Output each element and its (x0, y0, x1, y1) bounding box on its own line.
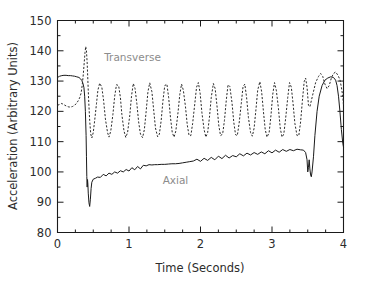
y-axis-title: Acceleration (Arbitrary Units) (6, 42, 20, 210)
y-tick-label-90: 90 (37, 195, 52, 209)
chart-figure: 01234 8090100110120130140150 TransverseA… (0, 0, 365, 283)
y-tick-label-110: 110 (30, 135, 52, 149)
y-tick-label-120: 120 (30, 104, 52, 118)
y-tick-label-130: 130 (30, 74, 52, 88)
x-tick-label-3: 3 (268, 237, 275, 251)
x-tick-label-1: 1 (125, 237, 132, 251)
y-tick-label-100: 100 (30, 165, 52, 179)
annotation-transverse: Transverse (103, 51, 161, 63)
x-axis-title: Time (Seconds) (154, 261, 244, 275)
y-tick-label-150: 150 (30, 14, 52, 28)
acceleration-time-plot: 01234 8090100110120130140150 TransverseA… (0, 0, 365, 283)
y-tick-label-80: 80 (37, 226, 52, 240)
y-tick-label-140: 140 (30, 44, 52, 58)
x-tick-label-4: 4 (340, 237, 347, 251)
annotation-axial: Axial (163, 174, 189, 186)
x-tick-label-0: 0 (54, 237, 61, 251)
x-tick-label-2: 2 (197, 237, 204, 251)
